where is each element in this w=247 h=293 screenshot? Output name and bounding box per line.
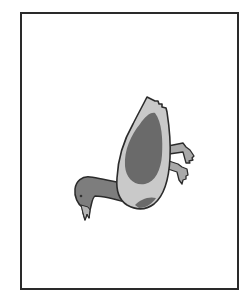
duck-illustration <box>0 0 247 293</box>
eye-icon <box>80 195 83 198</box>
duck-wing <box>125 113 162 184</box>
